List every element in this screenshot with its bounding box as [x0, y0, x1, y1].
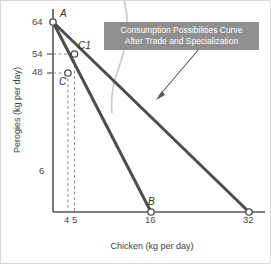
annotation-line-2: After Trade and Specialization [106, 36, 257, 47]
annotation-arrow-line [159, 49, 199, 96]
annotation-line-1: Consumption Possibilities Curve [106, 25, 257, 36]
point-label-c1: C1 [78, 41, 91, 51]
data-point-a [50, 19, 56, 25]
point-label-c: C [59, 77, 66, 87]
y-tick-label-54: 54 [32, 49, 43, 59]
point-label-b: B [148, 197, 155, 207]
x-tick-label-5: 5 [72, 215, 77, 225]
y-axis-title: Perogies (kg per day) [12, 50, 22, 170]
x-tick-label-16: 16 [145, 215, 156, 225]
consumption-possibilities-annotation: Consumption Possibilities Curve After Tr… [104, 22, 259, 50]
data-point-c1 [71, 51, 77, 57]
x-tick-label-4: 4 [64, 215, 69, 225]
y-tick-label-48: 48 [32, 67, 43, 77]
x-axis-title: Chicken (kg per day) [57, 241, 247, 251]
x-tick-label-32: 32 [243, 215, 254, 225]
y-tick-label-6: 6 [39, 166, 44, 176]
point-label-a: A [60, 9, 67, 19]
y-tick-label-64: 64 [32, 17, 43, 27]
annotation-arrow-head [156, 91, 165, 100]
leader-curve-decoration [112, 1, 128, 113]
chart-frame: 64 54 48 6 4 5 16 32 A C1 C B Consumptio… [0, 0, 271, 264]
